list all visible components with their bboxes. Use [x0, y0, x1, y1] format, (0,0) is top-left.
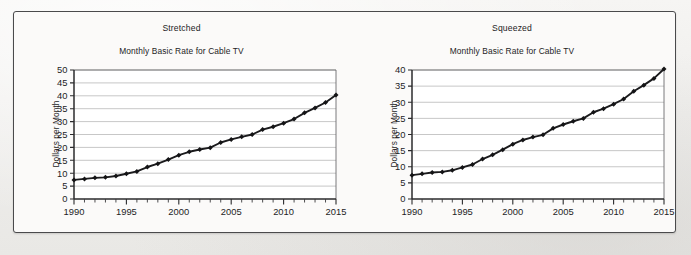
svg-text:5: 5 [400, 177, 405, 188]
svg-text:30: 30 [57, 116, 67, 127]
svg-text:2005: 2005 [553, 206, 574, 217]
svg-text:45: 45 [57, 77, 67, 88]
svg-text:0: 0 [62, 193, 67, 204]
svg-text:2010: 2010 [273, 206, 294, 217]
line-chart-squeezed: 0510152025303540199019952000200520102015 [349, 12, 676, 233]
svg-text:1990: 1990 [402, 206, 423, 217]
svg-text:1990: 1990 [64, 206, 85, 217]
svg-text:35: 35 [57, 103, 67, 114]
svg-text:2015: 2015 [326, 206, 347, 217]
line-chart-stretched: 0510152025303540455019901995200020052010… [14, 12, 350, 233]
svg-text:2010: 2010 [603, 206, 624, 217]
svg-text:25: 25 [395, 113, 405, 124]
svg-text:40: 40 [57, 90, 67, 101]
chart-panel-squeezed: Squeezed Monthly Basic Rate for Cable TV… [349, 12, 675, 232]
figure-frame: Stretched Monthly Basic Rate for Cable T… [13, 11, 676, 233]
svg-text:30: 30 [395, 97, 405, 108]
svg-text:35: 35 [395, 80, 405, 91]
svg-text:1995: 1995 [116, 206, 137, 217]
svg-text:0: 0 [400, 193, 405, 204]
svg-text:15: 15 [395, 145, 405, 156]
svg-text:2000: 2000 [502, 206, 523, 217]
svg-text:10: 10 [395, 161, 405, 172]
svg-text:50: 50 [57, 64, 67, 75]
svg-text:10: 10 [57, 168, 67, 179]
svg-text:15: 15 [57, 155, 67, 166]
svg-text:20: 20 [395, 129, 405, 140]
svg-text:20: 20 [57, 142, 67, 153]
chart-panels: Stretched Monthly Basic Rate for Cable T… [14, 12, 675, 232]
svg-text:2005: 2005 [221, 206, 242, 217]
svg-text:1995: 1995 [452, 206, 473, 217]
svg-text:2000: 2000 [168, 206, 189, 217]
svg-text:25: 25 [57, 129, 67, 140]
svg-text:5: 5 [62, 180, 67, 191]
svg-text:40: 40 [395, 64, 405, 75]
chart-panel-stretched: Stretched Monthly Basic Rate for Cable T… [14, 12, 349, 232]
svg-text:2015: 2015 [654, 206, 675, 217]
